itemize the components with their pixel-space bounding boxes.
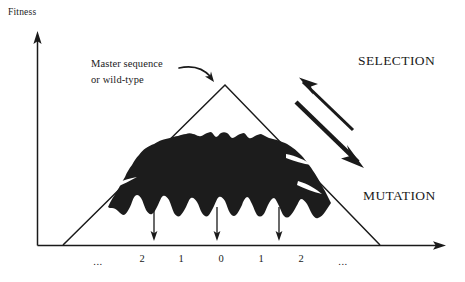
selection-label: SELECTION	[358, 53, 435, 69]
x-axis-tick-label: 2	[131, 253, 153, 266]
y-axis-title: Fitness	[8, 7, 36, 19]
master-sequence-annotation-line1: Master sequence	[91, 58, 163, 71]
x-axis-tick-label: 1	[250, 253, 272, 266]
downward-arrow-right	[276, 207, 283, 241]
master-sequence-pointer	[179, 67, 214, 82]
x-axis-tick-label: 2	[290, 253, 312, 266]
master-sequence-pointer-curve	[179, 67, 211, 77]
mutation-label: MUTATION	[363, 188, 436, 204]
selection-arrow	[299, 78, 353, 131]
downward-arrow-center	[214, 207, 221, 241]
quasispecies-cloud	[108, 128, 331, 219]
fitness-landscape-figure: Fitness Master sequence or wild-type SEL…	[0, 0, 465, 282]
x-axis-tick-label: 0	[210, 253, 232, 266]
figure-canvas	[0, 0, 465, 282]
cloud-highlight-peak	[204, 128, 214, 131]
x-axis-tick-label: ...	[332, 256, 354, 269]
x-axis-tick-label: ...	[87, 256, 109, 269]
mutation-arrow-shaft	[296, 102, 358, 162]
quasispecies-cloud-shape	[108, 132, 331, 218]
mutation-arrow	[296, 102, 364, 168]
master-sequence-annotation-line2: or wild-type	[91, 74, 144, 87]
x-axis-tick-label: 1	[170, 253, 192, 266]
